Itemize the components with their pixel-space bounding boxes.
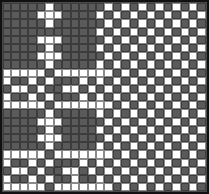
grid-cell[interactable] — [37, 101, 45, 109]
grid-cell[interactable] — [104, 175, 112, 183]
grid-cell[interactable] — [138, 175, 146, 183]
grid-cell[interactable] — [155, 11, 163, 19]
grid-cell[interactable] — [155, 183, 163, 191]
grid-cell[interactable] — [181, 142, 189, 150]
grid-cell[interactable] — [138, 167, 146, 175]
grid-cell[interactable] — [172, 11, 180, 19]
grid-cell[interactable] — [45, 60, 53, 68]
grid-cell[interactable] — [155, 101, 163, 109]
grid-cell[interactable] — [3, 28, 11, 36]
grid-cell[interactable] — [130, 126, 138, 134]
grid-cell[interactable] — [189, 167, 197, 175]
grid-cell[interactable] — [138, 134, 146, 142]
grid-cell[interactable] — [172, 93, 180, 101]
grid-cell[interactable] — [172, 109, 180, 117]
grid-cell[interactable] — [172, 159, 180, 167]
grid-cell[interactable] — [28, 134, 36, 142]
grid-cell[interactable] — [96, 44, 104, 52]
grid-cell[interactable] — [121, 19, 129, 27]
grid-cell[interactable] — [11, 85, 19, 93]
grid-cell[interactable] — [130, 101, 138, 109]
grid-cell[interactable] — [181, 101, 189, 109]
grid-cell[interactable] — [20, 85, 28, 93]
grid-cell[interactable] — [54, 159, 62, 167]
grid-cell[interactable] — [37, 52, 45, 60]
grid-cell[interactable] — [11, 142, 19, 150]
grid-cell[interactable] — [164, 85, 172, 93]
grid-cell[interactable] — [189, 69, 197, 77]
grid-cell[interactable] — [45, 36, 53, 44]
grid-cell[interactable] — [147, 60, 155, 68]
grid-cell[interactable] — [121, 3, 129, 11]
grid-cell[interactable] — [88, 69, 96, 77]
grid-cell[interactable] — [104, 109, 112, 117]
grid-cell[interactable] — [28, 175, 36, 183]
grid-cell[interactable] — [113, 77, 121, 85]
grid-cell[interactable] — [71, 183, 79, 191]
grid-cell[interactable] — [28, 150, 36, 158]
grid-cell[interactable] — [181, 60, 189, 68]
grid-cell[interactable] — [164, 3, 172, 11]
grid-cell[interactable] — [3, 60, 11, 68]
grid-cell[interactable] — [88, 183, 96, 191]
grid-cell[interactable] — [121, 77, 129, 85]
grid-cell[interactable] — [11, 93, 19, 101]
grid-cell[interactable] — [88, 44, 96, 52]
grid-cell[interactable] — [62, 101, 70, 109]
grid-cell[interactable] — [20, 175, 28, 183]
grid-cell[interactable] — [3, 36, 11, 44]
grid-cell[interactable] — [96, 183, 104, 191]
grid-cell[interactable] — [20, 150, 28, 158]
grid-cell[interactable] — [62, 77, 70, 85]
grid-cell[interactable] — [20, 159, 28, 167]
grid-cell[interactable] — [37, 28, 45, 36]
grid-cell[interactable] — [79, 19, 87, 27]
grid-cell[interactable] — [130, 150, 138, 158]
grid-cell[interactable] — [138, 19, 146, 27]
grid-cell[interactable] — [197, 28, 205, 36]
grid-cell[interactable] — [138, 44, 146, 52]
grid-cell[interactable] — [104, 28, 112, 36]
grid-cell[interactable] — [138, 36, 146, 44]
grid-cell[interactable] — [96, 77, 104, 85]
grid-cell[interactable] — [155, 150, 163, 158]
grid-cell[interactable] — [54, 142, 62, 150]
grid-cell[interactable] — [37, 36, 45, 44]
grid-cell[interactable] — [164, 52, 172, 60]
grid-cell[interactable] — [54, 183, 62, 191]
grid-cell[interactable] — [138, 69, 146, 77]
grid-cell[interactable] — [37, 109, 45, 117]
grid-cell[interactable] — [11, 167, 19, 175]
grid-cell[interactable] — [189, 175, 197, 183]
grid-cell[interactable] — [155, 85, 163, 93]
grid-cell[interactable] — [71, 142, 79, 150]
grid-cell[interactable] — [164, 77, 172, 85]
grid-cell[interactable] — [155, 44, 163, 52]
grid-cell[interactable] — [197, 52, 205, 60]
grid-cell[interactable] — [79, 175, 87, 183]
grid-cell[interactable] — [79, 126, 87, 134]
grid-cell[interactable] — [121, 134, 129, 142]
grid-cell[interactable] — [147, 28, 155, 36]
grid-cell[interactable] — [197, 3, 205, 11]
grid-cell[interactable] — [71, 175, 79, 183]
grid-cell[interactable] — [104, 101, 112, 109]
grid-cell[interactable] — [104, 77, 112, 85]
grid-cell[interactable] — [3, 150, 11, 158]
grid-cell[interactable] — [104, 36, 112, 44]
grid-cell[interactable] — [71, 93, 79, 101]
grid-cell[interactable] — [79, 159, 87, 167]
grid-cell[interactable] — [62, 118, 70, 126]
grid-cell[interactable] — [172, 118, 180, 126]
grid-cell[interactable] — [54, 150, 62, 158]
grid-cell[interactable] — [54, 167, 62, 175]
grid-cell[interactable] — [3, 93, 11, 101]
grid-cell[interactable] — [121, 28, 129, 36]
grid-cell[interactable] — [20, 142, 28, 150]
grid-cell[interactable] — [96, 19, 104, 27]
grid-cell[interactable] — [3, 142, 11, 150]
grid-cell[interactable] — [54, 118, 62, 126]
grid-cell[interactable] — [130, 134, 138, 142]
grid-cell[interactable] — [79, 36, 87, 44]
grid-cell[interactable] — [3, 159, 11, 167]
